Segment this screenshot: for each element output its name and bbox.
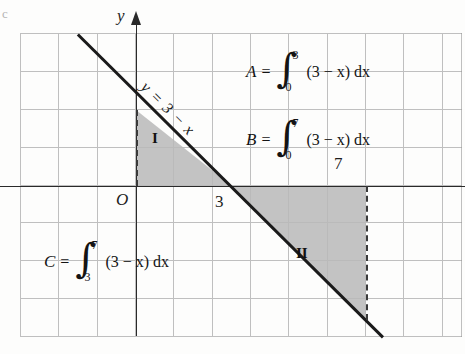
formula-a: A = ∫ 3 0 (3 − x) dx (246, 50, 370, 94)
integral-sign-b: ∫ 7 0 (276, 118, 302, 162)
formula-b: B = ∫ 7 0 (3 − x) dx (246, 118, 370, 162)
formula-a-integrand: (3 − x) dx (306, 63, 370, 81)
formula-a-name: A (246, 62, 256, 82)
formula-b-integrand: (3 − x) dx (306, 131, 370, 149)
y-axis-arrow-icon (131, 11, 141, 25)
formula-c-integrand: (3 − x) dx (105, 253, 169, 271)
coordinate-grid (20, 33, 462, 336)
integral-sign-a: ∫ 3 0 (276, 50, 302, 94)
formula-b-upper-limit: 7 (292, 116, 298, 131)
region-label-one: I (152, 130, 158, 147)
grid-edge-bottom (20, 336, 462, 337)
formula-c-equals: = (60, 253, 69, 271)
dashed-line-x0 (136, 110, 138, 186)
region-label-two: II (296, 245, 308, 262)
origin-label: O (116, 190, 128, 210)
corner-mark: c (2, 6, 8, 22)
figure-canvas: c y y = 3 − x I II O 3 7 A = ∫ 3 0 (3 − … (0, 0, 465, 354)
formula-a-lower-limit: 0 (285, 80, 291, 95)
y-axis-label: y (117, 6, 125, 26)
integral-sign-c: ∫ 7 3 (75, 240, 101, 284)
formula-b-lower-limit: 0 (285, 148, 291, 163)
grid-edge-right (461, 33, 462, 337)
formula-a-upper-limit: 3 (292, 48, 298, 63)
formula-c-upper-limit: 7 (91, 238, 97, 253)
formula-b-equals: = (261, 131, 270, 149)
formula-c-lower-limit: 3 (84, 270, 90, 285)
formula-c-name: C (44, 252, 55, 272)
x-tick-label-3: 3 (215, 192, 224, 212)
formula-b-name: B (246, 130, 256, 150)
formula-c: C = ∫ 7 3 (3 − x) dx (44, 240, 169, 284)
dashed-line-x7 (366, 186, 368, 320)
formula-a-equals: = (261, 63, 270, 81)
